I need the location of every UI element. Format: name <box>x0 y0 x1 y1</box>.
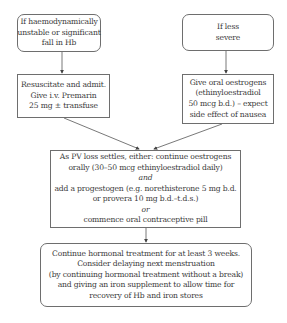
node-text-line: side effect of nausea <box>190 110 266 121</box>
node-text-line: (ethinyloestradiol <box>195 88 260 99</box>
node-text-line: orally (30–50 mcg ethinyloestradiol dail… <box>68 163 222 174</box>
node-text-line: or provera 10 mg b.d.–t.d.s.) <box>93 194 199 205</box>
arrow-resuscitate-to-pv-loss <box>64 118 139 149</box>
node-continue-hormonal-treatment: Continue hormonal treatment for at least… <box>40 243 252 307</box>
node-haemodynamically-unstable: If haemodynamically unstable or signific… <box>17 14 101 52</box>
node-pv-loss-settles: As PV loss settles, either: continue oes… <box>50 150 241 228</box>
node-text-line: 25 mg ± transfuse <box>29 101 98 112</box>
node-text-line: severe <box>216 33 240 44</box>
node-less-severe: If less severe <box>182 14 274 51</box>
connector-word-and: and <box>139 173 153 184</box>
node-text-line: and giving an iron supplement to allow t… <box>58 280 235 291</box>
node-text-line: Consider delaying next menstruation <box>77 259 215 270</box>
node-text-line: 50 mcg b.d.) – expect <box>188 99 267 110</box>
connector-word-or: or <box>142 205 150 216</box>
node-text-line: If less <box>217 22 239 33</box>
node-resuscitate-admit: Resuscitate and admit. Give i.v. Premari… <box>17 74 110 118</box>
node-text-line: Give i.v. Premarin <box>31 91 97 102</box>
node-text-line: Give oral oestrogens <box>190 78 267 89</box>
arrow-oral-oestrogens-to-pv-loss <box>154 124 222 149</box>
node-text-line: If haemodynamically <box>20 17 97 28</box>
node-text-line: Continue hormonal treatment for at least… <box>52 249 240 260</box>
node-text-line: Resuscitate and admit. <box>21 80 106 91</box>
node-text-line: unstable or significant <box>17 28 100 39</box>
node-text-line: add a progestogen (e.g. norethisterone 5… <box>54 184 236 195</box>
node-text-line: recovery of Hb and iron stores <box>89 291 202 302</box>
node-text-line: commence oral contraceptive pill <box>84 215 208 226</box>
node-oral-oestrogens: Give oral oestrogens (ethinyloestradiol … <box>182 74 274 124</box>
node-text-line: As PV loss settles, either: continue oes… <box>60 152 231 163</box>
node-text-line: fall in Hb <box>42 38 76 49</box>
node-text-line: (by continuing hormonal treatment withou… <box>49 270 243 281</box>
